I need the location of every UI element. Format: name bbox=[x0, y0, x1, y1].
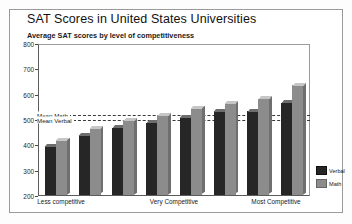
bar-groups bbox=[39, 45, 309, 195]
x-axis-labels: Less competitiveVery CompetitiveMost Com… bbox=[38, 198, 310, 210]
bar-math bbox=[292, 85, 303, 195]
bar-verbal bbox=[146, 123, 157, 196]
bar-math bbox=[191, 109, 202, 195]
bar-face bbox=[214, 111, 225, 195]
bar-face bbox=[56, 140, 67, 195]
bar-math bbox=[157, 115, 168, 195]
bar-top bbox=[56, 138, 69, 141]
legend-item[interactable]: Verbal bbox=[316, 166, 350, 175]
bar-side bbox=[303, 83, 306, 195]
bar-group bbox=[45, 45, 67, 195]
bar-face bbox=[90, 129, 101, 195]
bar-face bbox=[157, 115, 168, 195]
bar-verbal bbox=[79, 135, 90, 195]
bar-verbal bbox=[214, 111, 225, 195]
bar-side bbox=[269, 96, 272, 194]
x-axis-tick-label: Very Competitive bbox=[150, 198, 198, 205]
bar-face bbox=[292, 85, 303, 195]
legend-swatch-icon bbox=[316, 166, 327, 175]
bar-face bbox=[258, 99, 269, 195]
bar-math bbox=[56, 140, 67, 195]
plot-area: 200300400500600700800 Mean MathMean Verb… bbox=[38, 44, 310, 196]
y-axis-tick-label: 500 bbox=[23, 117, 34, 124]
bar-verbal bbox=[45, 146, 56, 195]
bar-side bbox=[168, 113, 171, 195]
bar-group bbox=[180, 45, 202, 195]
bar-math bbox=[90, 129, 101, 195]
y-axis-tick-label: 400 bbox=[23, 142, 34, 149]
bar-face bbox=[123, 120, 134, 195]
y-axis-tick-mark bbox=[35, 44, 38, 45]
bar-math bbox=[123, 120, 134, 195]
bar-side bbox=[134, 118, 137, 195]
bar-group bbox=[112, 45, 134, 195]
y-axis-tick-label: 600 bbox=[23, 91, 34, 98]
bar-verbal bbox=[247, 111, 258, 195]
page-title: SAT Scores in United States Universities bbox=[27, 12, 256, 26]
y-axis-tick-mark bbox=[35, 145, 38, 146]
bar-verbal bbox=[112, 128, 123, 196]
bar-side bbox=[202, 106, 205, 194]
bar-verbal bbox=[180, 118, 191, 196]
y-axis-tick-label: 300 bbox=[23, 167, 34, 174]
bar-verbal bbox=[281, 103, 292, 196]
bar-face bbox=[45, 146, 56, 195]
legend-label: Math bbox=[329, 181, 341, 187]
y-axis-tick-mark bbox=[35, 95, 38, 96]
y-axis-tick-label: 700 bbox=[23, 66, 34, 73]
y-axis-tick-label: 200 bbox=[23, 193, 34, 200]
chart-subtitle: Average SAT scores by level of competiti… bbox=[27, 31, 194, 40]
chart-screenshot: SAT Scores in United States Universities… bbox=[0, 0, 352, 224]
bar-group bbox=[247, 45, 269, 195]
bar-group bbox=[214, 45, 236, 195]
y-axis-tick-mark bbox=[35, 196, 38, 197]
bar-face bbox=[247, 111, 258, 195]
bar-face bbox=[281, 103, 292, 196]
legend-swatch-icon bbox=[316, 179, 327, 188]
x-axis-tick-label: Most Competitive bbox=[251, 198, 300, 205]
bar-side bbox=[100, 126, 103, 194]
bar-top bbox=[124, 118, 137, 121]
bar-group bbox=[146, 45, 168, 195]
bar-side bbox=[235, 101, 238, 194]
x-axis-tick-label: Less competitive bbox=[37, 198, 85, 205]
bar-top bbox=[158, 113, 171, 116]
bar-math bbox=[258, 99, 269, 195]
y-axis-tick-mark bbox=[35, 171, 38, 172]
bar-group bbox=[281, 45, 303, 195]
legend-item[interactable]: Math bbox=[316, 179, 350, 188]
bar-face bbox=[112, 128, 123, 196]
y-axis-tick-label: 800 bbox=[23, 41, 34, 48]
bar-face bbox=[79, 135, 90, 195]
legend-label: Verbal bbox=[329, 168, 345, 174]
y-axis-tick-mark bbox=[35, 69, 38, 70]
bar-math bbox=[225, 104, 236, 195]
bar-face bbox=[146, 123, 157, 196]
bar-top bbox=[293, 83, 306, 86]
bar-face bbox=[191, 109, 202, 195]
bar-face bbox=[180, 118, 191, 196]
bar-face bbox=[225, 104, 236, 195]
bar-side bbox=[67, 138, 70, 195]
bar-group bbox=[79, 45, 101, 195]
chart-legend: VerbalMath bbox=[316, 166, 350, 188]
